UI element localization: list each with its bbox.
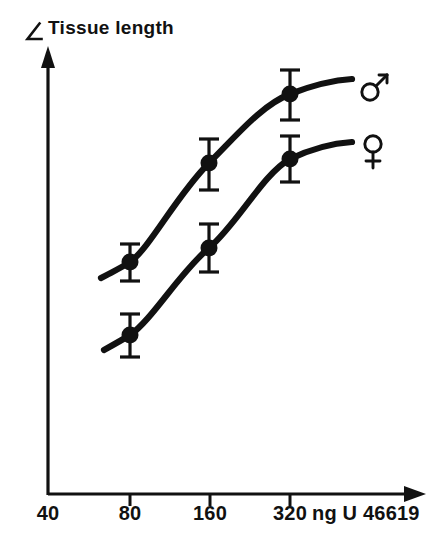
x-axis-arrowhead — [404, 486, 426, 502]
male-symbol-icon — [362, 75, 387, 100]
x-tick-label-80: 80 — [119, 502, 142, 525]
x-tick-label-320: 320 — [273, 502, 307, 525]
y-axis-arrowhead — [41, 46, 55, 68]
figure-root: Tissue length 40 80 160 320 ng U 46619 — [0, 0, 439, 552]
male-point-1 — [120, 244, 140, 281]
chart-canvas — [0, 0, 439, 552]
female-curve-path — [104, 142, 352, 350]
male-point-2 — [199, 139, 219, 190]
male-curve-path — [101, 79, 352, 278]
series-male — [101, 70, 387, 281]
x-axis-unit-label: ng U 46619 — [312, 502, 420, 525]
male-marker-2 — [201, 155, 218, 172]
y-axis-label: Tissue length — [48, 18, 174, 37]
female-point-1 — [120, 314, 140, 357]
x-tick-label-160: 160 — [193, 502, 227, 525]
x-tick-label-40: 40 — [37, 502, 60, 525]
female-marker-1 — [122, 327, 139, 344]
female-marker-3 — [282, 151, 299, 168]
delta-icon — [24, 20, 46, 44]
y-axis — [41, 46, 55, 495]
female-point-2 — [199, 224, 219, 272]
female-marker-2 — [201, 240, 218, 257]
male-marker-1 — [122, 254, 139, 271]
male-marker-3 — [282, 86, 299, 103]
female-point-3 — [280, 136, 300, 182]
female-symbol-icon — [365, 136, 381, 168]
male-point-3 — [280, 70, 300, 120]
